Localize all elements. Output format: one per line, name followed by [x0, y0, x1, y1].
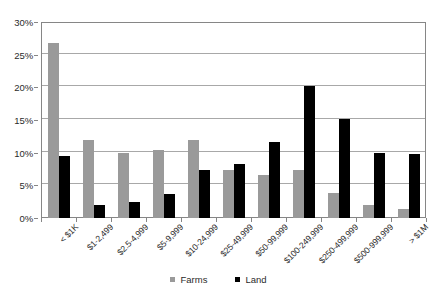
- x-axis-tick-label: $25-49,999: [218, 222, 255, 259]
- bar-farms: [293, 170, 304, 218]
- bar-group: [146, 22, 181, 218]
- legend-swatch-icon: [170, 277, 175, 282]
- bar-group: [111, 22, 146, 218]
- y-axis-tick-mark: [34, 153, 38, 154]
- bar-farms: [363, 205, 374, 218]
- bar-farms: [328, 193, 339, 218]
- bar-land: [304, 86, 315, 218]
- bar-farms: [118, 153, 129, 218]
- bars-layer: [41, 22, 426, 218]
- x-axis-tick-mark: [426, 218, 427, 222]
- bar-group: [41, 22, 76, 218]
- bar-land: [234, 164, 245, 218]
- legend-label: Farms: [180, 274, 207, 285]
- bar-group: [391, 22, 426, 218]
- y-axis-tick-label: 20%: [14, 82, 33, 93]
- bar-land: [409, 154, 420, 218]
- bar-land: [164, 194, 175, 218]
- bar-group: [321, 22, 356, 218]
- bar-land: [339, 119, 350, 218]
- bar-group: [286, 22, 321, 218]
- bar-land: [59, 156, 70, 218]
- y-axis: 0%5%10%15%20%25%30%: [0, 22, 38, 218]
- x-axis-tick-label: $10-24,999: [183, 222, 220, 259]
- bar-chart: 0%5%10%15%20%25%30% < $1K$1-2,499$2.5-4,…: [0, 0, 437, 297]
- y-axis-tick-label: 25%: [14, 49, 33, 60]
- bar-farms: [188, 140, 199, 218]
- legend-item-farms: Farms: [170, 274, 207, 285]
- y-axis-tick-mark: [34, 218, 38, 219]
- y-axis-tick-label: 5%: [19, 180, 33, 191]
- x-axis-tick-label: $5-9,999: [155, 222, 185, 252]
- y-axis-tick-label: 10%: [14, 147, 33, 158]
- bar-farms: [48, 43, 59, 218]
- bar-land: [129, 202, 140, 218]
- x-axis-tick-label: $2.5-4,999: [115, 222, 150, 257]
- x-axis-labels: < $1K$1-2,499$2.5-4,999$5-9,999$10-24,99…: [41, 222, 426, 280]
- chart-legend: FarmsLand: [0, 274, 437, 285]
- bar-group: [181, 22, 216, 218]
- y-axis-tick-mark: [34, 55, 38, 56]
- bar-farms: [153, 150, 164, 218]
- y-axis-tick-mark: [34, 22, 38, 23]
- y-axis-tick-label: 30%: [14, 17, 33, 28]
- bar-farms: [258, 175, 269, 218]
- x-axis-tick-label: < $1K: [58, 222, 81, 245]
- y-axis-tick-label: 15%: [14, 115, 33, 126]
- y-axis-tick-label: 0%: [19, 213, 33, 224]
- bar-group: [216, 22, 251, 218]
- bar-land: [199, 170, 210, 218]
- bar-farms: [223, 170, 234, 218]
- bar-group: [356, 22, 391, 218]
- bar-land: [94, 205, 105, 218]
- legend-item-land: Land: [235, 274, 266, 285]
- x-axis-tick-label: $1-2,499: [85, 222, 115, 252]
- bar-farms: [398, 209, 409, 218]
- bar-farms: [83, 140, 94, 218]
- y-axis-tick-mark: [34, 87, 38, 88]
- x-axis-tick-label: $50-99,999: [253, 222, 290, 259]
- bar-land: [374, 153, 385, 218]
- y-axis-tick-mark: [34, 185, 38, 186]
- bar-group: [251, 22, 286, 218]
- x-axis-tick-label: > $1M: [407, 222, 431, 246]
- bar-group: [76, 22, 111, 218]
- bar-land: [269, 142, 280, 218]
- y-axis-tick-mark: [34, 120, 38, 121]
- legend-label: Land: [245, 274, 266, 285]
- legend-swatch-icon: [235, 277, 240, 282]
